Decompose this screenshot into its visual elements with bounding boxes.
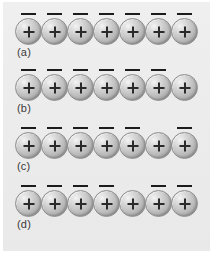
sphere-c-6 bbox=[145, 132, 172, 159]
sphere-c-2 bbox=[41, 132, 68, 159]
figure-row-c: (c) bbox=[3, 120, 210, 176]
sphere-c-4 bbox=[93, 132, 120, 159]
sphere-d-3 bbox=[67, 190, 94, 217]
dash-c-3 bbox=[73, 127, 88, 129]
plus-icon bbox=[120, 19, 145, 44]
plus-icon bbox=[68, 191, 93, 216]
dash-d-3 bbox=[73, 185, 88, 187]
row-label-d: (d) bbox=[17, 218, 31, 230]
plus-icon bbox=[42, 75, 67, 100]
sphere-b-5 bbox=[119, 74, 146, 101]
dash-d-2 bbox=[47, 185, 62, 187]
plus-icon bbox=[94, 19, 119, 44]
sphere-b-1 bbox=[15, 74, 42, 101]
plus-icon bbox=[16, 19, 41, 44]
figure-panel: (a) (b) bbox=[3, 2, 210, 251]
sphere-d-7 bbox=[171, 190, 198, 217]
plus-icon bbox=[68, 133, 93, 158]
plus-icon bbox=[120, 191, 145, 216]
plus-icon bbox=[94, 133, 119, 158]
sphere-b-6 bbox=[145, 74, 172, 101]
plus-icon bbox=[16, 191, 41, 216]
plus-icon bbox=[172, 75, 197, 100]
sphere-b-3 bbox=[67, 74, 94, 101]
row-label-c: (c) bbox=[17, 160, 30, 172]
plus-icon bbox=[68, 19, 93, 44]
sphere-a-5 bbox=[119, 18, 146, 45]
figure-row-b: (b) bbox=[3, 62, 210, 118]
dash-b-6 bbox=[151, 69, 166, 71]
row-label-b: (b) bbox=[17, 102, 31, 114]
figure-row-d: (d) bbox=[3, 178, 210, 234]
dash-d-6 bbox=[151, 185, 166, 187]
plus-icon bbox=[68, 75, 93, 100]
dash-d-4 bbox=[99, 185, 114, 187]
figure-row-a: (a) bbox=[3, 6, 210, 62]
dash-b-1 bbox=[21, 69, 36, 71]
plus-icon bbox=[172, 133, 197, 158]
dash-a-5 bbox=[125, 13, 140, 15]
plus-icon bbox=[172, 191, 197, 216]
plus-icon bbox=[94, 191, 119, 216]
sphere-c-5 bbox=[119, 132, 146, 159]
sphere-a-6 bbox=[145, 18, 172, 45]
sphere-d-2 bbox=[41, 190, 68, 217]
plus-icon bbox=[120, 75, 145, 100]
plus-icon bbox=[146, 75, 171, 100]
dash-c-5 bbox=[125, 127, 140, 129]
sphere-a-4 bbox=[93, 18, 120, 45]
sphere-b-7 bbox=[171, 74, 198, 101]
dash-a-1 bbox=[21, 13, 36, 15]
sphere-d-5 bbox=[119, 190, 146, 217]
dash-c-4 bbox=[99, 127, 114, 129]
plus-icon bbox=[146, 133, 171, 158]
dash-c-7 bbox=[177, 127, 192, 129]
plus-icon bbox=[42, 133, 67, 158]
sphere-c-3 bbox=[67, 132, 94, 159]
plus-icon bbox=[120, 133, 145, 158]
dash-a-4 bbox=[99, 13, 114, 15]
plus-icon bbox=[146, 19, 171, 44]
dash-b-5 bbox=[125, 69, 140, 71]
sphere-d-4 bbox=[93, 190, 120, 217]
dash-a-6 bbox=[151, 13, 166, 15]
plus-icon bbox=[16, 133, 41, 158]
sphere-d-1 bbox=[15, 190, 42, 217]
plus-icon bbox=[42, 19, 67, 44]
sphere-a-3 bbox=[67, 18, 94, 45]
sphere-b-4 bbox=[93, 74, 120, 101]
dash-d-7 bbox=[177, 185, 192, 187]
sphere-b-2 bbox=[41, 74, 68, 101]
sphere-c-1 bbox=[15, 132, 42, 159]
dash-d-1 bbox=[21, 185, 36, 187]
dash-b-4 bbox=[99, 69, 114, 71]
plus-icon bbox=[16, 75, 41, 100]
sphere-a-2 bbox=[41, 18, 68, 45]
sphere-d-6 bbox=[145, 190, 172, 217]
sphere-a-7 bbox=[171, 18, 198, 45]
sphere-track-b bbox=[15, 74, 198, 102]
row-label-a: (a) bbox=[17, 46, 31, 58]
sphere-c-7 bbox=[171, 132, 198, 159]
dash-b-2 bbox=[47, 69, 62, 71]
dash-a-2 bbox=[47, 13, 62, 15]
sphere-track-d bbox=[15, 190, 198, 218]
plus-icon bbox=[94, 75, 119, 100]
plus-icon bbox=[172, 19, 197, 44]
dash-b-3 bbox=[73, 69, 88, 71]
dash-a-3 bbox=[73, 13, 88, 15]
plus-icon bbox=[42, 191, 67, 216]
sphere-track-c bbox=[15, 132, 198, 160]
dash-c-1 bbox=[21, 127, 36, 129]
sphere-a-1 bbox=[15, 18, 42, 45]
plus-icon bbox=[146, 191, 171, 216]
dash-a-7 bbox=[177, 13, 192, 15]
sphere-track-a bbox=[15, 18, 198, 46]
dash-c-2 bbox=[47, 127, 62, 129]
